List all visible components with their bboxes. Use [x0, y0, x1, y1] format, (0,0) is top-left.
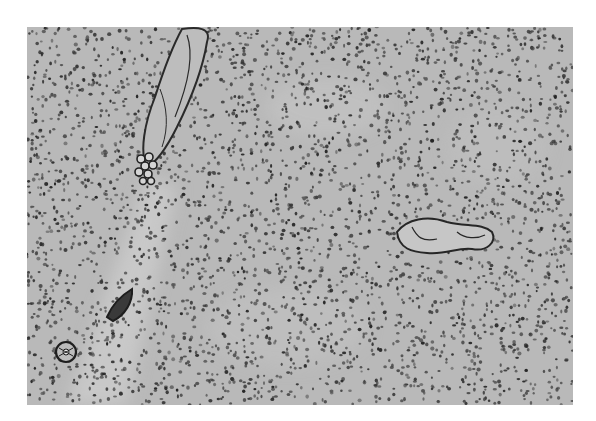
- tissue-field: [27, 27, 573, 405]
- histology-micrograph: [27, 27, 573, 405]
- vessel-cluster-icon: [135, 153, 157, 185]
- vessel-right-icon: [397, 219, 493, 254]
- vessel-round-icon: [56, 342, 76, 362]
